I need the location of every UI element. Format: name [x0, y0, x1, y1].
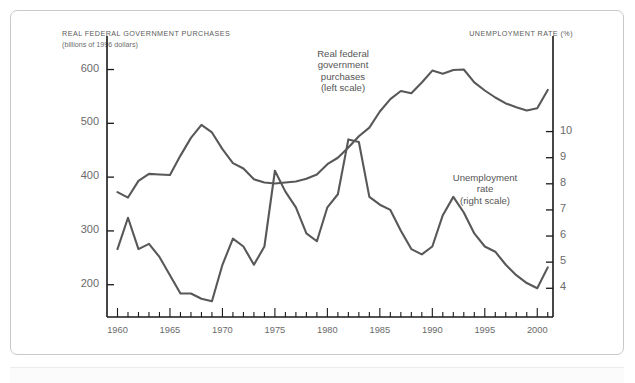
right-axis-tick-label: 5 — [560, 254, 566, 266]
x-axis-tick-label: 1970 — [198, 325, 246, 335]
x-axis-tick-label: 1995 — [461, 325, 509, 335]
left-axis-tick-label: 600 — [55, 62, 99, 74]
series-line-unemployment — [117, 139, 547, 301]
right-axis-tick-label: 9 — [560, 150, 566, 162]
x-axis-tick-label: 1965 — [146, 325, 194, 335]
right-axis-tick-label: 6 — [560, 228, 566, 240]
right-axis-tick-label: 10 — [560, 124, 572, 136]
x-axis-tick-label: 2000 — [513, 325, 561, 335]
left-axis-tick-label: 300 — [55, 223, 99, 235]
series-line-purchases — [117, 70, 547, 198]
left-axis-tick-label: 200 — [55, 277, 99, 289]
x-axis-tick-label: 1985 — [356, 325, 404, 335]
right-axis-tick-label: 4 — [560, 280, 566, 292]
left-axis-tick-label: 400 — [55, 169, 99, 181]
right-axis-tick-label: 8 — [560, 176, 566, 188]
x-axis-tick-label: 1990 — [408, 325, 456, 335]
x-axis-tick-label: 1975 — [251, 325, 299, 335]
left-axis-tick-label: 500 — [55, 115, 99, 127]
right-axis-tick-label: 7 — [560, 202, 566, 214]
x-axis-tick-label: 1960 — [93, 325, 141, 335]
x-axis-tick-label: 1980 — [303, 325, 351, 335]
